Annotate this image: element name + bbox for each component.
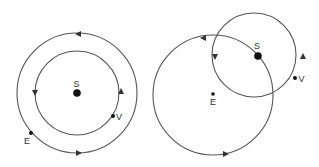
heliocentric-diagram: S V E bbox=[17, 31, 137, 156]
sun-label: S bbox=[254, 41, 260, 51]
sun-label: S bbox=[74, 79, 80, 89]
geocentric-diagram: S V E bbox=[153, 13, 306, 157]
venus-orbit-around-sun bbox=[212, 13, 296, 97]
arrow-right-icon bbox=[223, 151, 229, 157]
arrow-right-icon bbox=[76, 150, 82, 156]
earth-label: E bbox=[210, 97, 216, 107]
earth-label: E bbox=[24, 136, 30, 146]
earth-dot bbox=[211, 92, 215, 96]
arrow-left-icon bbox=[75, 31, 81, 37]
venus-dot bbox=[111, 114, 115, 118]
arrow-down-icon bbox=[32, 90, 38, 96]
earth-dot bbox=[29, 131, 33, 135]
sun-dot bbox=[254, 52, 262, 60]
arrow-up-icon bbox=[300, 53, 306, 59]
venus-label: V bbox=[116, 112, 122, 122]
venus-dot bbox=[293, 76, 297, 80]
orbit-diagrams: S V E S V E bbox=[0, 0, 319, 167]
arrow-down-icon bbox=[212, 54, 218, 60]
venus-label: V bbox=[299, 74, 305, 84]
sun-dot bbox=[73, 89, 81, 97]
